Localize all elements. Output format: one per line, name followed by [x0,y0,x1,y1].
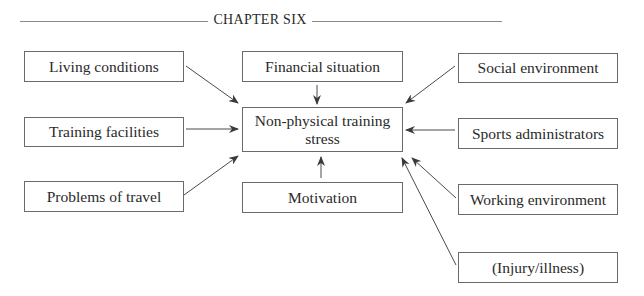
factor-financial-situation: Financial situation [242,51,403,82]
factor-working-environment: Working environment [458,184,618,215]
factor-living-conditions: Living conditions [24,51,184,82]
factor-training-facilities: Training facilities [24,117,184,147]
factor-problems-of-travel: Problems of travel [24,181,184,212]
factor-motivation: Motivation [242,182,403,213]
factor-label: Living conditions [49,58,159,76]
factor-label: Working environment [470,191,606,209]
factor-social-environment: Social environment [458,53,618,83]
center-node: Non-physical training stress [242,107,403,152]
factor-label: Problems of travel [47,188,162,206]
arrow-problems-of-travel [184,156,238,195]
factor-injury-illness: (Injury/illness) [458,252,618,283]
factor-label: Financial situation [265,58,380,76]
factor-label: Sports administrators [472,125,604,143]
factor-label: (Injury/illness) [492,259,584,277]
center-label-line2: stress [305,130,339,148]
factor-label: Motivation [288,189,357,207]
arrow-social-environment [406,66,455,103]
factor-sports-administrators: Sports administrators [458,118,618,149]
factor-label: Training facilities [49,123,159,141]
arrow-living-conditions [186,66,238,103]
factor-label: Social environment [478,59,599,77]
center-label-line1: Non-physical training [255,112,391,130]
